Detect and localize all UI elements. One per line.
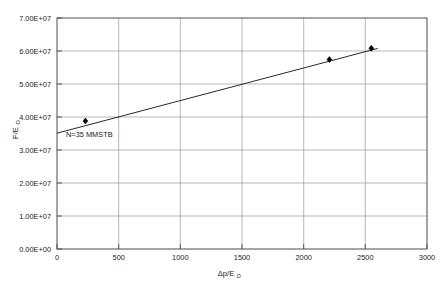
xtick-label-2000: 2000 — [295, 253, 311, 262]
ytick-label-3e7: 3.00E+07 — [19, 146, 51, 155]
xaxis-title-main: Δp/E — [218, 269, 234, 278]
ytick-label-0: 0.00E+00 — [19, 245, 51, 254]
xtick-label-1500: 1500 — [234, 253, 250, 262]
ytick-label-1e7: 1.00E+07 — [19, 212, 51, 221]
xtick-label-1000: 1000 — [172, 253, 188, 262]
xaxis-title-subscript: O — [237, 273, 242, 279]
ytick-label-6e7: 6.00E+07 — [19, 47, 51, 56]
chart-background — [0, 0, 445, 288]
chart-container: 0.00E+00 1.00E+07 2.00E+07 3.00E+07 4.00… — [0, 0, 445, 288]
xtick-label-500: 500 — [113, 253, 125, 262]
yaxis-title-main: F/E — [11, 127, 20, 139]
xtick-label-0: 0 — [55, 253, 59, 262]
chart-canvas: 0.00E+00 1.00E+07 2.00E+07 3.00E+07 4.00… — [0, 0, 445, 288]
ytick-label-5e7: 5.00E+07 — [19, 80, 51, 89]
ytick-label-4e7: 4.00E+07 — [19, 113, 51, 122]
ytick-label-2e7: 2.00E+07 — [19, 179, 51, 188]
annotation-reserves: N=35 MMSTB — [66, 130, 113, 139]
xtick-label-3000: 3000 — [419, 253, 435, 262]
ytick-label-7e7: 7.00E+07 — [19, 14, 51, 23]
xtick-label-2500: 2500 — [357, 253, 373, 262]
yaxis-title-subscript: O — [15, 120, 21, 125]
